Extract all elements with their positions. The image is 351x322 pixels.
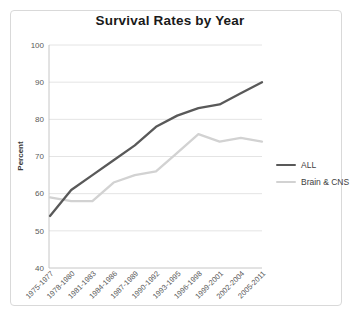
legend-item-brain-cns: Brain & CNS xyxy=(276,177,349,187)
screenshot-stage: Survival Rates by Year 40506070809010019… xyxy=(0,0,351,322)
legend-swatch-all xyxy=(276,164,296,167)
y-tick-label: 80 xyxy=(35,115,44,124)
series-line-all xyxy=(50,82,262,216)
y-tick-label: 40 xyxy=(35,264,44,273)
legend-item-all: ALL xyxy=(276,160,349,170)
legend-swatch-brain-cns xyxy=(276,181,296,184)
legend-label-all: ALL xyxy=(301,160,316,170)
series-line-brain-cns xyxy=(50,134,262,201)
y-axis-title: Percent xyxy=(16,141,25,171)
y-tick-label: 90 xyxy=(35,78,44,87)
y-tick-label: 50 xyxy=(35,227,44,236)
y-tick-label: 70 xyxy=(35,152,44,161)
y-tick-label: 60 xyxy=(35,189,44,198)
legend-label-brain-cns: Brain & CNS xyxy=(301,177,349,187)
y-tick-label: 100 xyxy=(31,41,45,50)
chart-legend: ALL Brain & CNS xyxy=(276,160,349,187)
